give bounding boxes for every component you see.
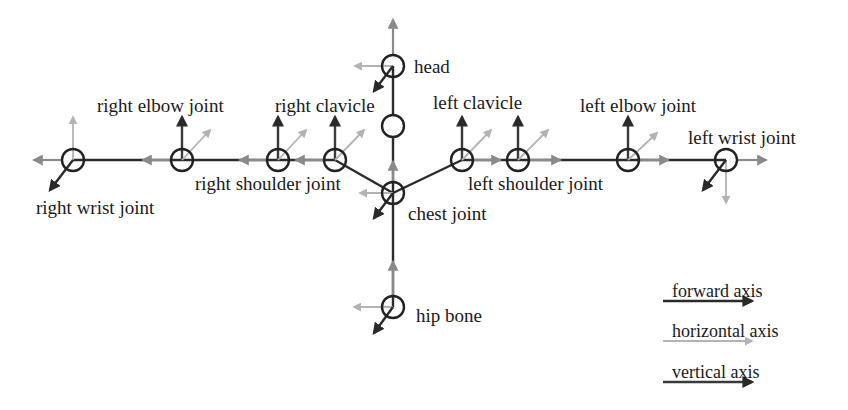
label-right-clavicle: right clavicle — [275, 95, 375, 116]
joint-left-elbow — [617, 149, 639, 171]
joint-neck — [382, 115, 404, 137]
label-right-elbow: right elbow joint — [97, 95, 224, 116]
label-left-elbow: left elbow joint — [580, 95, 697, 116]
joint-head — [382, 55, 404, 77]
legend-forward-label: forward axis — [672, 281, 762, 301]
vertical-axis-arrows — [182, 117, 628, 160]
joint-left-shoulder — [507, 149, 529, 171]
label-chest: chest joint — [408, 203, 487, 224]
joint-right-shoulder — [267, 149, 289, 171]
legend-horizontal-label: horizontal axis — [672, 321, 778, 341]
label-left-shoulder: left shoulder joint — [468, 173, 604, 194]
legend-vertical-label: vertical axis — [672, 362, 759, 382]
label-left-clavicle: left clavicle — [433, 92, 522, 113]
joint-chest — [382, 182, 404, 204]
joint-right-wrist — [62, 149, 84, 171]
label-head: head — [414, 56, 450, 77]
label-right-shoulder: right shoulder joint — [195, 173, 341, 194]
joint-right-clavicle — [324, 149, 346, 171]
joint-left-wrist — [715, 149, 737, 171]
joint-right-elbow — [171, 149, 193, 171]
legend: forward axis horizontal axis vertical ax… — [663, 281, 778, 382]
label-hip: hip bone — [416, 305, 482, 326]
label-right-wrist: right wrist joint — [36, 197, 155, 218]
label-left-wrist: left wrist joint — [688, 127, 796, 148]
skeleton-axis-diagram: head right elbow joint right clavicle le… — [0, 0, 848, 410]
joint-left-clavicle — [451, 149, 473, 171]
joint-hip — [382, 296, 404, 318]
